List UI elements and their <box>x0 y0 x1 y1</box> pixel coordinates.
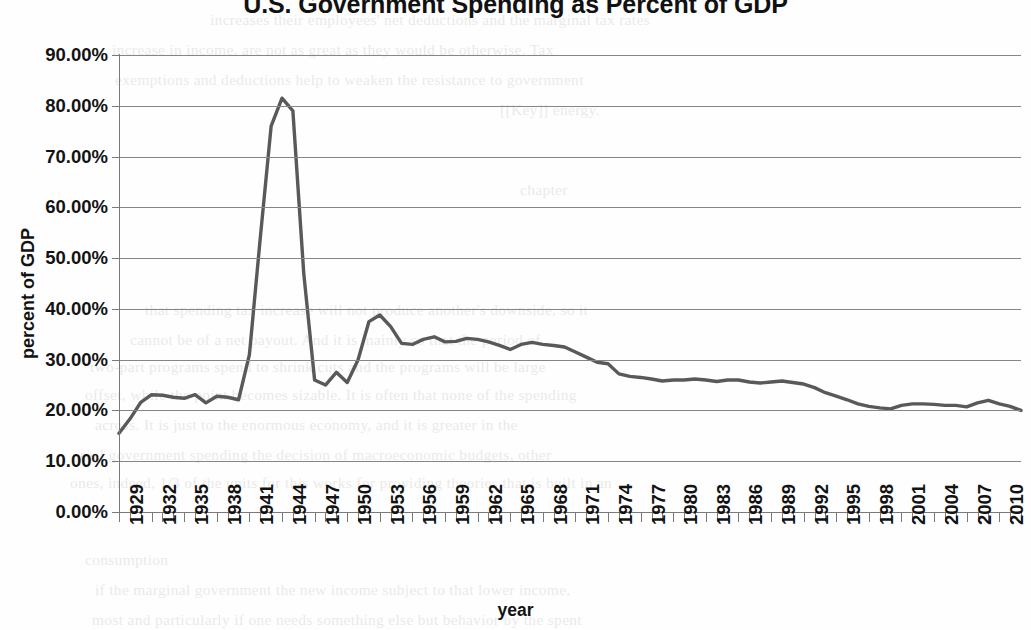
x-axis-tick-label: 1935 <box>191 484 213 525</box>
y-axis-tick <box>112 461 120 462</box>
x-axis-tick-label: 1965 <box>517 484 539 525</box>
x-axis-tick-label: 1998 <box>876 484 898 525</box>
y-axis-tick <box>112 106 120 107</box>
y-axis-tick <box>112 207 120 208</box>
y-axis-tick <box>112 512 120 513</box>
x-axis-tick-label: 1929 <box>126 484 148 525</box>
chart-page: increases their employees' net deduction… <box>0 0 1031 630</box>
x-axis-tick-label: 1932 <box>159 484 181 525</box>
x-axis-tick-label: 2004 <box>941 484 963 525</box>
x-axis-tick-label: 1983 <box>713 484 735 525</box>
x-axis-tick-labels: 1929193219351938194119441947195019531956… <box>0 0 1031 630</box>
x-axis-tick-label: 1953 <box>387 484 409 525</box>
x-axis-tick-label: 1962 <box>485 484 507 525</box>
x-axis-tick-label: 2007 <box>974 484 996 525</box>
chart-title: U.S. Government Spending as Percent of G… <box>0 0 1031 19</box>
y-axis-tick <box>112 55 120 56</box>
y-axis-tick <box>112 410 120 411</box>
x-axis-tick-label: 2001 <box>908 484 930 525</box>
x-axis-tick-label: 1938 <box>224 484 246 525</box>
x-axis-tick-label: 1941 <box>256 484 278 525</box>
x-axis-tick-label: 1944 <box>289 484 311 525</box>
y-axis-tick <box>112 258 120 259</box>
y-axis-tick <box>112 309 120 310</box>
x-axis-tick-label: 1956 <box>419 484 441 525</box>
x-axis-title: year <box>0 600 1031 621</box>
x-axis-tick-label: 1992 <box>811 484 833 525</box>
x-axis-tick-label: 1989 <box>778 484 800 525</box>
x-axis-tick-label: 1968 <box>550 484 572 525</box>
x-axis-tick-label: 1995 <box>843 484 865 525</box>
x-axis-tick-label: 1971 <box>582 484 604 525</box>
x-axis-tick-label: 2010 <box>1006 484 1028 525</box>
x-axis-tick-label: 1980 <box>680 484 702 525</box>
x-axis-tick-label: 1959 <box>452 484 474 525</box>
y-axis-tick <box>112 157 120 158</box>
x-axis-tick-label: 1986 <box>745 484 767 525</box>
x-axis-tick-label: 1950 <box>354 484 376 525</box>
x-axis-tick-label: 1974 <box>615 484 637 525</box>
x-axis-tick-label: 1947 <box>322 484 344 525</box>
x-axis-tick-label: 1977 <box>648 484 670 525</box>
y-axis-tick <box>112 360 120 361</box>
